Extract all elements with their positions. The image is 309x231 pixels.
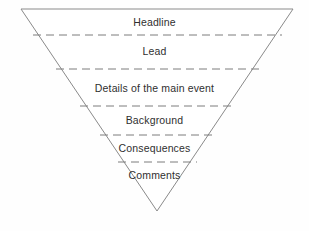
pyramid-outline	[21, 9, 293, 211]
inverted-pyramid-diagram: Headline Lead Details of the main event …	[0, 0, 309, 231]
pyramid-shape	[0, 0, 309, 231]
